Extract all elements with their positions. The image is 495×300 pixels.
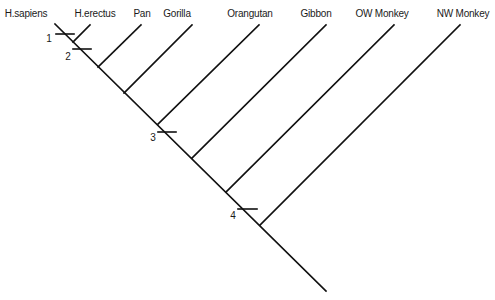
branch-orangutan bbox=[158, 25, 259, 124]
taxon-label: H.erectus bbox=[75, 8, 116, 19]
cladogram-lines bbox=[55, 24, 460, 291]
branch-gorilla bbox=[124, 25, 192, 93]
branch-gibbon bbox=[192, 25, 326, 158]
taxon-label: Pan bbox=[133, 8, 150, 19]
trunk-branch bbox=[55, 24, 326, 291]
character-mark-label: 4 bbox=[230, 210, 236, 221]
taxon-label: NW Monkey bbox=[437, 8, 490, 19]
branch-h-erectus bbox=[73, 25, 90, 42]
branch-nw-monkey bbox=[260, 25, 460, 225]
taxon-label: Gibbon bbox=[300, 8, 331, 19]
cladogram-canvas bbox=[0, 0, 495, 300]
branch-ow-monkey bbox=[226, 25, 394, 192]
taxon-label: Gorilla bbox=[163, 8, 191, 19]
taxon-label: OW Monkey bbox=[355, 8, 408, 19]
character-mark-label: 2 bbox=[65, 51, 71, 62]
character-mark-label: 1 bbox=[46, 33, 52, 44]
character-mark-label: 3 bbox=[150, 132, 156, 143]
taxon-label: Orangutan bbox=[227, 8, 272, 19]
taxon-label: H.sapiens bbox=[5, 8, 48, 19]
branch-pan bbox=[98, 25, 141, 67]
